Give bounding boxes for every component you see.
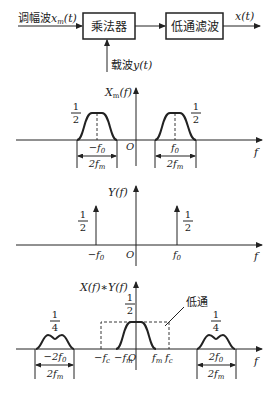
left-impulse-label: −f0 bbox=[88, 249, 105, 262]
right-impulse-label: f0 bbox=[172, 249, 182, 262]
neg-fc-label: −fc bbox=[94, 352, 110, 365]
y-axis-label: Xm(f) bbox=[104, 86, 132, 100]
left-amplitude-fraction: 1 2 bbox=[71, 101, 81, 125]
right-image-amplitude: 1 4 bbox=[211, 309, 221, 333]
right-center-label: f0 bbox=[170, 142, 180, 155]
origin-label: O bbox=[126, 141, 134, 152]
right-impulse-amplitude: 1 2 bbox=[183, 209, 193, 233]
right-sideband bbox=[155, 113, 196, 140]
svg-text:2: 2 bbox=[80, 222, 86, 233]
left-image-center-label: −2f0 bbox=[44, 351, 67, 364]
diagram-canvas: 调幅波xm(t) 乘法器 低通滤波 x(t) 载波y(t) Xm(f) f O … bbox=[0, 0, 277, 396]
svg-text:2: 2 bbox=[185, 222, 191, 233]
fm-label: fm bbox=[151, 352, 163, 365]
svg-text:2: 2 bbox=[193, 114, 199, 125]
lowpass-annotation: 低通 bbox=[186, 296, 208, 309]
svg-text:4: 4 bbox=[52, 322, 58, 333]
x-axis-label: f bbox=[253, 146, 260, 159]
svg-text:2: 2 bbox=[73, 114, 79, 125]
right-image-spectrum bbox=[197, 335, 235, 349]
svg-text:1: 1 bbox=[193, 101, 199, 112]
right-amplitude-fraction: 1 2 bbox=[191, 101, 201, 125]
left-image-spectrum bbox=[36, 335, 74, 349]
svg-text:1: 1 bbox=[80, 209, 86, 220]
input-label: 调幅波xm(t) bbox=[18, 12, 77, 26]
svg-text:1: 1 bbox=[127, 292, 133, 303]
center-amplitude-fraction: 1 2 bbox=[125, 292, 135, 316]
y-axis-label: Y(f) bbox=[108, 186, 128, 199]
y-axis-label: X(f)∗Y(f) bbox=[79, 281, 128, 294]
left-impulse-amplitude: 1 2 bbox=[78, 209, 88, 233]
output-label: x(t) bbox=[235, 10, 254, 23]
origin-label: O bbox=[126, 249, 134, 260]
svg-text:1: 1 bbox=[73, 101, 79, 112]
lowpass-leader bbox=[165, 307, 184, 326]
right-image-center-label: 2f0 bbox=[208, 351, 224, 364]
right-width-label: 2fm bbox=[207, 368, 225, 381]
block-diagram: 调幅波xm(t) 乘法器 低通滤波 x(t) 载波y(t) bbox=[18, 10, 260, 72]
left-width-label: 2fm bbox=[46, 368, 64, 381]
x-axis-label: f bbox=[253, 250, 260, 263]
left-image-amplitude: 1 4 bbox=[50, 309, 60, 333]
lowpass-label: 低通滤波 bbox=[171, 20, 219, 34]
plot-carrier-spectrum: Y(f) f O 1 2 1 2 −f0 f0 bbox=[16, 186, 262, 266]
x-axis-label: f bbox=[253, 355, 260, 368]
svg-text:1: 1 bbox=[52, 309, 58, 320]
right-width-label: 2fm bbox=[166, 158, 184, 171]
plot-xm-spectrum: Xm(f) f O −f0 2fm 1 2 f0 2fm 1 2 bbox=[16, 86, 262, 171]
fc-label: fc bbox=[164, 352, 173, 365]
svg-text:4: 4 bbox=[213, 322, 219, 333]
carrier-label: 载波y(t) bbox=[111, 59, 152, 72]
left-width-label: 2fm bbox=[88, 158, 106, 171]
multiplier-label: 乘法器 bbox=[91, 20, 127, 34]
plot-product-spectrum: X(f)∗Y(f) f O 低通 1 2 −2f0 2fm 1 4 2f0 bbox=[16, 281, 262, 381]
svg-text:2: 2 bbox=[127, 305, 133, 316]
left-center-label: −f0 bbox=[89, 142, 106, 155]
lowpass-window bbox=[101, 322, 169, 349]
svg-text:1: 1 bbox=[213, 309, 219, 320]
svg-text:1: 1 bbox=[185, 209, 191, 220]
